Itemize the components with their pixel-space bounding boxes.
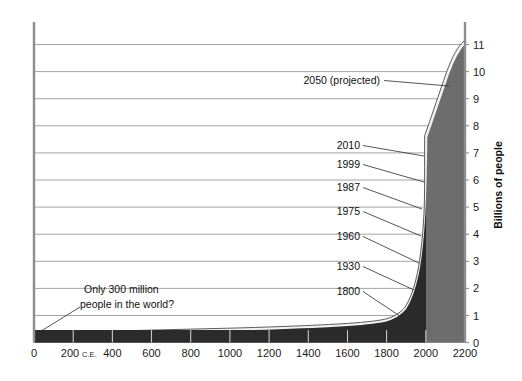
y-axis-title: Billions of people — [492, 141, 504, 229]
annotation-label-2050: 2050 (projected) — [304, 74, 380, 86]
x-tick-label-1200: 1200 — [257, 347, 281, 359]
y-tick-label-7: 7 — [473, 147, 479, 159]
x-tick-label-1800: 1800 — [374, 347, 398, 359]
y-tick-label-4: 4 — [473, 228, 479, 240]
y-tick-label-3: 3 — [473, 255, 479, 267]
x-tick-label-2000: 2000 — [414, 347, 438, 359]
y-tick-label-1: 1 — [473, 310, 479, 322]
population-growth-chart: 0 1 2 3 4 5 6 7 8 9 10 11 Billions of pe… — [0, 0, 522, 381]
y-tick-label-5: 5 — [473, 201, 479, 213]
x-tick-label-1600: 1600 — [335, 347, 359, 359]
callout-line-2: people in the world? — [80, 298, 174, 310]
y-tick-label-6: 6 — [473, 174, 479, 186]
x-tick-label-2200: 2200 — [453, 347, 477, 359]
y-tick-label-10: 10 — [473, 66, 485, 78]
y-tick-label-8: 8 — [473, 120, 479, 132]
callout-line-1: Only 300 million — [84, 283, 159, 295]
x-tick-label-800: 800 — [182, 347, 200, 359]
annotation-label-1987: 1987 — [337, 181, 361, 193]
annotation-label-1800: 1800 — [337, 285, 361, 297]
y-tick-label-2: 2 — [473, 282, 479, 294]
y-tick-label-9: 9 — [473, 93, 479, 105]
x-tick-label-1000: 1000 — [218, 347, 242, 359]
annotation-label-1960: 1960 — [337, 230, 361, 242]
x-tick-label-1400: 1400 — [296, 347, 320, 359]
annotation-label-2010: 2010 — [337, 139, 361, 151]
x-tick-label-200: 200 — [61, 347, 79, 359]
annotation-label-1999: 1999 — [337, 158, 361, 170]
y-tick-label-11: 11 — [473, 39, 484, 51]
x-tick-label-600: 600 — [142, 347, 160, 359]
x-tick-label-ce-suffix: C.E. — [82, 350, 97, 359]
x-tick-label-400: 400 — [103, 347, 121, 359]
annotation-label-1930: 1930 — [337, 260, 361, 272]
x-tick-label-0: 0 — [31, 347, 37, 359]
axis-band-projected — [426, 330, 465, 343]
chart-svg: 0 1 2 3 4 5 6 7 8 9 10 11 Billions of pe… — [0, 0, 522, 381]
annotation-label-1975: 1975 — [337, 205, 361, 217]
